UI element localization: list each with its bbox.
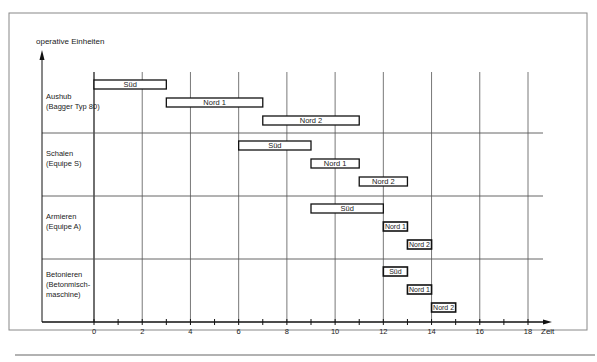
group-separators [42, 133, 543, 259]
x-tick-label: 2 [140, 327, 144, 336]
axes [40, 50, 553, 325]
task-label: Süd [340, 204, 353, 213]
task-label: Nord 2 [433, 304, 454, 311]
x-tick-label: 4 [188, 327, 192, 336]
group-label-line: (Bagger Typ 80) [46, 102, 100, 111]
task-label: Süd [268, 141, 281, 150]
x-tick-label: 8 [285, 327, 289, 336]
task-label: Nord 2 [372, 177, 395, 186]
group-label-line: Aushub [46, 92, 71, 101]
task-label: Nord 1 [409, 286, 430, 293]
grid [94, 72, 528, 322]
task-label: Süd [123, 80, 136, 89]
x-tick-label: 12 [379, 327, 387, 336]
x-tick-label: 14 [427, 327, 435, 336]
group-label-line: (Equipe S) [46, 159, 82, 168]
group-labels: Aushub(Bagger Typ 80)Schalen(Equipe S)Ar… [46, 92, 100, 299]
x-tick-label: 16 [476, 327, 484, 336]
task-label: Nord 2 [300, 116, 323, 125]
x-tick-label: 0 [92, 327, 96, 336]
group-label-line: (Betonmisch- [46, 280, 91, 289]
task-label: Nord 1 [203, 98, 226, 107]
group-label-line: Betonieren [46, 270, 82, 279]
gantt-chart: operative Einheiten Zeit 024681012141618… [0, 0, 597, 362]
x-tick-label: 6 [237, 327, 241, 336]
task-label: Nord 1 [385, 223, 406, 230]
group-label-line: Armieren [46, 212, 76, 221]
x-axis-label: Zeit [541, 327, 555, 336]
x-tick-label: 10 [331, 327, 339, 336]
chart-frame [9, 13, 587, 330]
group-label-line: Schalen [46, 149, 73, 158]
y-axis-arrow-icon [40, 50, 45, 60]
x-axis-arrow-icon [543, 320, 552, 325]
group-label-line: maschine) [46, 290, 81, 299]
x-tick-label: 18 [524, 327, 532, 336]
group-label-line: (Equipe A) [46, 222, 82, 231]
task-label: Nord 2 [409, 241, 430, 248]
y-axis-label: operative Einheiten [36, 37, 105, 46]
task-label: Süd [389, 268, 402, 275]
task-label: Nord 1 [324, 159, 347, 168]
